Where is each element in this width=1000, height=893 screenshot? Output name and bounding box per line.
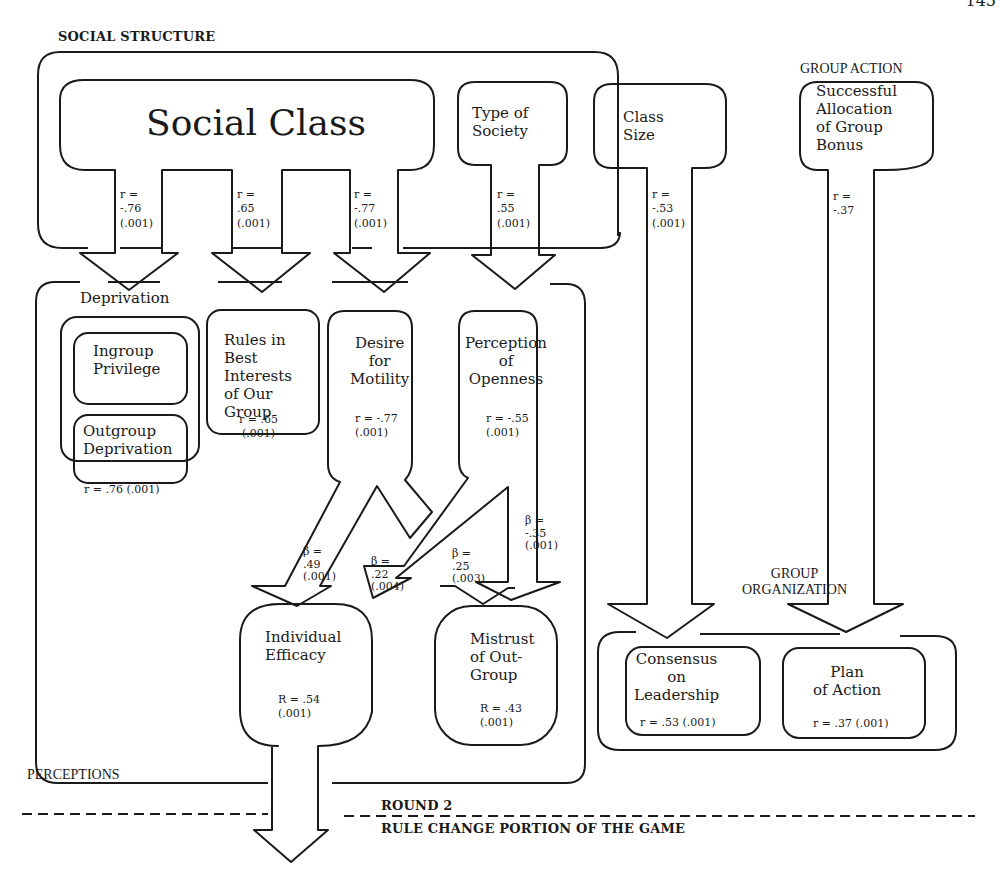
round-label: ROUND 2 [381, 799, 453, 814]
plan-of-action-label: Plan of Action [813, 663, 881, 699]
social-class-label: Social Class [146, 103, 366, 143]
stat-mistrust: R = .43 (.001) [480, 702, 522, 731]
stat-class-rules: r = .65 (.001) [237, 188, 270, 231]
stat-society-openness: r = .55 (.001) [497, 188, 530, 231]
outgroup-deprivation-label: Outgroup Deprivation [83, 422, 172, 458]
path-arrow-head [440, 586, 515, 604]
rules-label: Rules in Best Interests of Our Group [224, 331, 292, 421]
section-perceptions: PERCEPTIONS [27, 767, 120, 783]
ingroup-privilege-label: Ingroup Privilege [93, 342, 161, 378]
stat-bonus-plan: r = -.37 [833, 190, 854, 219]
class-size-label: Class Size [623, 108, 664, 144]
stat-rules: r = .65 (.001) [239, 413, 278, 442]
round-subtitle: RULE CHANGE PORTION OF THE GAME [381, 822, 685, 837]
consensus-label: Consensus on Leadership [634, 650, 719, 704]
beta-motility-mistrust: β = .25 (.003) [452, 548, 485, 586]
stat-motility: r = -.77 (.001) [355, 412, 398, 441]
class-size-box [594, 84, 726, 638]
page-number: 145 [965, 0, 996, 10]
stat-deprivation: r = .76 (.001) [84, 483, 160, 497]
motility-label: Desire for Motility [350, 334, 409, 388]
stat-plan: r = .37 (.001) [813, 717, 889, 731]
section-group-action: GROUP ACTION [800, 61, 903, 77]
openness-label: Perception of Openness [465, 334, 547, 388]
stat-class-motility: r = -.77 (.001) [354, 188, 387, 231]
section-group-organization: GROUP ORGANIZATION [742, 566, 847, 597]
type-of-society-label: Type of Society [472, 104, 528, 140]
stat-openness: r = -.55 (.001) [486, 412, 529, 441]
group-bonus-box [788, 82, 933, 632]
stat-class-deprivation: r = -.76 (.001) [120, 188, 153, 231]
stat-size-consensus: r = -.53 (.001) [652, 188, 685, 231]
beta-openness-efficacy: β = .22 (.004) [371, 556, 404, 594]
deprivation-title: Deprivation [80, 289, 169, 307]
group-bonus-label: Successful Allocation of Group Bonus [816, 82, 897, 154]
mistrust-label: Mistrust of Out- Group [470, 630, 534, 684]
stat-consensus: r = .53 (.001) [640, 716, 716, 730]
individual-efficacy-label: Individual Efficacy [265, 628, 341, 664]
section-social-structure: SOCIAL STRUCTURE [58, 30, 215, 45]
stat-efficacy: R = .54 (.001) [278, 693, 320, 722]
beta-motility-efficacy: β = .49 (.001) [303, 546, 336, 584]
beta-openness-mistrust: β = -.35 (.001) [525, 515, 558, 553]
